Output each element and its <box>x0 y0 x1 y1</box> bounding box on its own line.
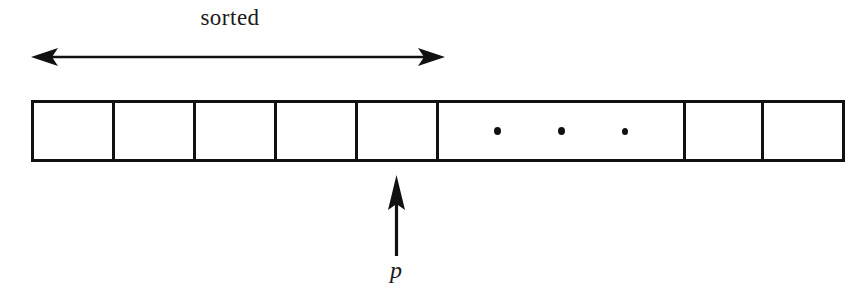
array-cell-6 <box>686 103 764 159</box>
array-cell-7 <box>764 103 842 159</box>
array-cell-1 <box>115 103 196 159</box>
array-cell-4 <box>358 103 439 159</box>
array-diagram-figure: sorted <box>0 0 866 296</box>
pointer-label: p <box>376 258 416 282</box>
up-arrow-icon <box>380 172 414 266</box>
array-cell-ellipsis <box>439 103 686 159</box>
sorted-span-label: sorted <box>150 6 310 29</box>
ellipsis-dot-3 <box>622 128 628 135</box>
array-cell-3 <box>277 103 358 159</box>
array-cell-0 <box>34 103 115 159</box>
array-container <box>31 100 845 162</box>
ellipsis-dot-2 <box>558 127 565 135</box>
ellipsis-dot-1 <box>494 127 501 135</box>
double-headed-horizontal-arrow-icon <box>28 42 448 76</box>
array-cell-2 <box>196 103 277 159</box>
